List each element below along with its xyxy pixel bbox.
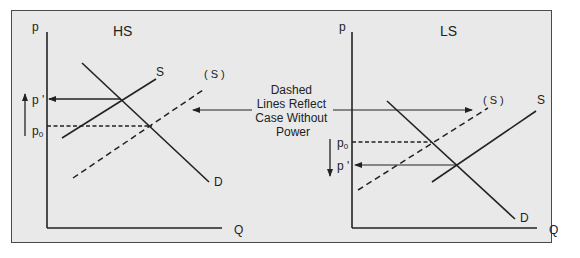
ls-title: LS (440, 23, 457, 39)
ls-supply-curve (432, 111, 536, 182)
annotation: Dashed Lines Reflect Case Without Power (193, 83, 472, 139)
ls-supply-without-power-label: ( S ) (483, 94, 504, 106)
hs-supply-without-power-label: ( S ) (204, 68, 225, 80)
panel-ls: p LS Q D S ( S ) p0 p ' (330, 20, 558, 237)
hs-demand-label: D (214, 175, 223, 189)
hs-demand-curve (82, 63, 209, 182)
hs-x-axis-label: Q (234, 223, 243, 237)
ls-p-prime-label: p ' (337, 159, 349, 173)
hs-y-axis-label: p (32, 20, 39, 34)
hs-p-prime-label: p ' (32, 93, 44, 107)
ls-demand-curve (387, 101, 515, 219)
hs-supply-without-power-curve (73, 90, 203, 178)
panel-hs: p HS Q D S ( S ) p ' p0 (25, 20, 243, 237)
hs-title: HS (113, 23, 132, 39)
ls-demand-label: D (520, 211, 529, 225)
hs-p0-label: p0 (32, 124, 44, 139)
annotation-text: Dashed Lines Reflect Case Without Power (255, 83, 330, 139)
ls-supply-without-power-curve (358, 108, 488, 190)
supply-demand-diagram: p HS Q D S ( S ) p ' p0 Dashed Lines Ref… (0, 0, 580, 258)
ls-p0-label: p0 (337, 136, 349, 151)
ls-y-axis-label: p (339, 20, 346, 34)
hs-supply-label: S (156, 65, 164, 79)
ls-x-axis-label: Q (549, 223, 558, 237)
ls-supply-label: S (537, 93, 545, 107)
